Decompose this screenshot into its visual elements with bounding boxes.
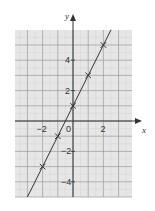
line-chart: xy−202−4−224 [0, 0, 155, 211]
y-axis-label: y [64, 11, 69, 21]
x-tick-label: 0 [66, 124, 71, 134]
x-tick-label: 2 [100, 124, 105, 134]
x-axis-arrow-icon [135, 118, 142, 124]
y-axis-arrow-icon [70, 14, 76, 21]
y-tick-label: 2 [65, 86, 70, 96]
y-tick-label: −2 [61, 146, 71, 156]
y-tick-label: 4 [65, 55, 70, 65]
x-tick-label: −2 [37, 124, 47, 134]
x-axis-label: x [141, 125, 146, 135]
y-tick-label: −4 [61, 177, 71, 187]
